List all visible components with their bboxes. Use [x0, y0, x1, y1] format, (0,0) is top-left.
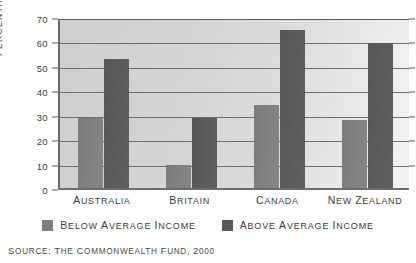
bar-new-zealand-below — [342, 120, 367, 188]
bar-australia-above — [104, 59, 129, 188]
bar-britain-below — [166, 165, 191, 188]
cropped-title-remnant — [0, 0, 416, 7]
right-tick-mark-30 — [409, 116, 415, 117]
y-tick-mark-70 — [52, 19, 58, 20]
y-tick-mark-0 — [52, 190, 58, 191]
right-tick-mark-70 — [409, 19, 415, 20]
gridline-70 — [60, 19, 409, 20]
right-tick-mark-50 — [409, 67, 415, 68]
y-tick-label-50: 50 — [14, 62, 48, 73]
y-tick-label-70: 70 — [14, 14, 48, 25]
legend-item-above: ABOVE AVERAGE INCOME — [222, 219, 374, 231]
y-tick-mark-20 — [52, 141, 58, 142]
bar-canada-below — [254, 105, 279, 188]
gridline-60 — [60, 43, 409, 44]
source-note: SOURCE: THE COMMONWEALTH FUND, 2000 — [8, 245, 215, 256]
legend-swatch-below — [42, 220, 53, 231]
bar-new-zealand-above — [368, 43, 393, 188]
right-tick-mark-60 — [409, 43, 415, 44]
chart-legend: BELOW AVERAGE INCOMEABOVE AVERAGE INCOME — [0, 219, 416, 231]
x-label-canada: CANADA — [256, 194, 299, 206]
legend-swatch-above — [222, 220, 233, 231]
legend-label-above: ABOVE AVERAGE INCOME — [240, 219, 374, 231]
right-tick-mark-10 — [409, 165, 415, 166]
y-tick-label-20: 20 — [14, 136, 48, 147]
legend-label-below: BELOW AVERAGE INCOME — [60, 219, 195, 231]
y-tick-mark-50 — [52, 67, 58, 68]
y-tick-mark-40 — [52, 92, 58, 93]
y-tick-label-30: 30 — [14, 111, 48, 122]
legend-item-below: BELOW AVERAGE INCOME — [42, 219, 195, 231]
plot-area — [58, 19, 409, 190]
y-tick-mark-30 — [52, 116, 58, 117]
bar-britain-above — [192, 118, 217, 188]
right-tick-mark-40 — [409, 92, 415, 93]
y-tick-mark-10 — [52, 165, 58, 166]
y-tick-label-60: 60 — [14, 38, 48, 49]
y-tick-label-40: 40 — [14, 87, 48, 98]
x-label-britain: BRITAIN — [169, 194, 210, 206]
x-label-new-zealand: NEW ZEALAND — [328, 194, 403, 206]
bar-australia-below — [78, 118, 103, 188]
bar-canada-above — [280, 30, 305, 188]
y-axis-title: PERCENTAGE — [0, 0, 4, 56]
x-label-australia: AUSTRALIA — [73, 194, 130, 206]
bar-chart-figure: PERCENTAGE 010203040506070 AUSTRALIABRIT… — [0, 0, 416, 263]
right-tick-mark-20 — [409, 141, 415, 142]
y-tick-label-0: 0 — [14, 185, 48, 196]
y-tick-mark-60 — [52, 43, 58, 44]
y-tick-label-10: 10 — [14, 160, 48, 171]
